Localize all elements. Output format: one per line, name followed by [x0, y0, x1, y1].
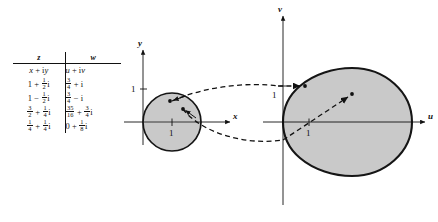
- z-y-axis-label: y: [137, 38, 143, 48]
- w-u-tick-label: 1: [306, 128, 311, 138]
- w-point-b: [350, 92, 354, 96]
- z-y-tick-label: 1: [131, 84, 136, 94]
- complex-mapping-figure: x y 1 1 u v 1 1: [0, 0, 438, 222]
- w-v-tick-label: 1: [272, 90, 277, 100]
- z-x-tick-label: 1: [169, 128, 174, 138]
- z-point-a: [168, 99, 172, 103]
- w-point-a: [303, 84, 307, 88]
- w-plane-diagram: u v 1 1: [263, 4, 433, 205]
- w-u-axis-label: u: [428, 111, 433, 121]
- z-x-axis-label: x: [232, 111, 238, 121]
- w-v-axis-label: v: [278, 4, 283, 14]
